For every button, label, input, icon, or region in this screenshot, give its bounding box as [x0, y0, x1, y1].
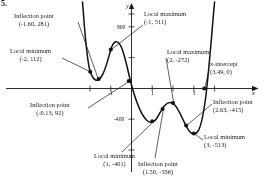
annotation-title: Inflection point: [138, 160, 178, 167]
annotation-local-min-bottom-right: Local minimum (3, -513): [204, 133, 245, 148]
annotation-title: x-intercept: [210, 60, 238, 67]
x-axis-label: x: [252, 89, 255, 96]
annotation-coords: (-2, 112): [10, 55, 51, 63]
point-local-min-left: [88, 70, 92, 74]
annotation-coords: (2, -272): [167, 56, 209, 64]
y-axis-arrow: [129, 3, 134, 9]
annotation-title: Local maximum: [167, 48, 209, 55]
annotation-coords: (1.50, -336): [138, 168, 178, 176]
leader-inflection-upper-left: [78, 22, 98, 78]
x-tick-label-1: 1: [151, 90, 154, 96]
annotation-inflection-right: Inflection point (2.63, -415): [213, 98, 253, 113]
annotation-local-min-bottom-left: Local minimum (1, -401): [94, 152, 135, 167]
leader-inflection-bottom: [155, 110, 163, 158]
annotation-title: Local maximum: [144, 10, 186, 17]
point-inflection-upper-left: [97, 77, 101, 81]
leader-local-min-left: [62, 58, 89, 71]
point-local-max-right: [171, 101, 175, 105]
point-local-max-left: [109, 48, 113, 52]
annotation-title: Local minimum: [94, 152, 135, 159]
annotation-local-max-left: Local maximum (-1, 511): [144, 10, 186, 25]
point-x-intercept: [202, 87, 206, 91]
y-axis-label: y: [126, 2, 129, 9]
annotation-coords: (-0.13, 92): [30, 109, 70, 117]
annotation-title: Inflection point: [30, 101, 70, 108]
annotation-inflection-bottom: Inflection point (1.50, -336): [138, 160, 178, 175]
annotation-title: Inflection point: [213, 98, 253, 105]
y-tick-label-minus400: -400: [114, 116, 124, 122]
point-local-min-bottom-right: [192, 132, 196, 136]
point-inflection-right: [184, 124, 188, 128]
leader-inflection-right: [187, 104, 212, 125]
x-tick-label-minus1: -1: [109, 90, 114, 96]
annotation-inflection-upper-left: Inflection point (-1.60, 281): [14, 12, 54, 27]
annotation-coords: (1, -401): [94, 160, 135, 168]
annotation-coords: (-1, 511): [144, 18, 186, 26]
leader-local-min-bottom-left: [122, 123, 153, 152]
leader-lines-group: [62, 22, 212, 158]
x-tick-label-3: 3: [193, 90, 196, 96]
annotation-title: Local minimum: [10, 47, 51, 54]
annotation-title: Inflection point: [14, 12, 54, 19]
annotation-x-intercept: x-intercept (3.49, 0): [210, 60, 238, 75]
annotation-title: Local minimum: [204, 133, 245, 140]
annotation-local-max-right: Local maximum (2, -272): [167, 48, 209, 63]
leader-local-max-right: [166, 58, 174, 102]
leader-local-min-bottom-right: [195, 134, 203, 140]
annotation-coords: (3.49, 0): [210, 68, 238, 76]
annotation-coords: (2.63, -415): [213, 106, 253, 114]
y-tick-label-800: 800: [117, 24, 125, 30]
annotation-coords: (-1.60, 281): [14, 20, 54, 28]
annotation-inflection-lower-left: Inflection point (-0.13, 92): [30, 101, 70, 116]
annotation-local-min-left: Local minimum (-2, 112): [10, 47, 51, 62]
point-inflection-bottom: [161, 107, 165, 111]
annotation-coords: (3, -513): [204, 141, 245, 149]
